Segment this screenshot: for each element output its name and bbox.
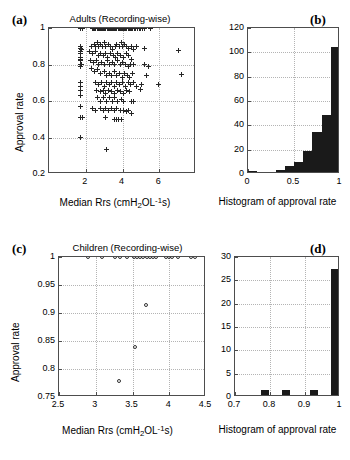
x-axis-tick-label: 4 [119,176,124,186]
x-axis-tick-label: 0.7 [228,399,241,409]
tick-mark-y [248,150,251,151]
data-point-circle [86,256,90,259]
x-axis-tick-label: 2.5 [52,399,65,409]
data-point-plus [78,104,83,109]
y-axis-tick-label: 1 [14,22,45,32]
tick-mark-y [248,52,251,53]
subscript-2: 2 [140,429,144,438]
panel-a-xlabel: Median Rrs (cmH2OL-1s) [30,196,200,210]
histogram-bar [331,269,339,395]
y-axis-tick-label: 20 [213,144,244,154]
tick-mark-y [235,327,238,328]
gridline-vertical [270,257,271,395]
panel-d-xlabel: Histogram of approval rate [205,424,350,435]
data-point-plus [129,57,134,62]
panel-b-letter: (b) [310,12,326,28]
data-point-plus [80,115,85,120]
gridline-vertical [133,257,134,395]
tick-mark-y [235,374,238,375]
data-point-plus [179,72,184,77]
histogram-bar [331,47,339,172]
data-point-plus [80,27,85,31]
data-point-plus [103,115,108,120]
y-axis-tick-label: 1 [24,251,55,261]
panel-a-plot-area [48,27,195,173]
x-axis-tick-label: 3.5 [125,399,138,409]
panel-b-plot-area [247,27,339,173]
gridline-horizontal [248,77,338,78]
data-point-plus [148,27,153,31]
data-point-plus [142,46,147,51]
superscript-minus-1: -1 [155,196,162,205]
superscript-minus-1: -1 [158,424,165,433]
gridline-horizontal [235,374,338,375]
gridline-horizontal [248,101,338,102]
histogram-bar [310,390,318,395]
data-point-plus [131,99,136,104]
data-point-plus [131,62,136,67]
y-axis-tick-label: 0 [213,168,244,178]
histogram-bar [294,162,303,172]
data-point-plus [142,27,147,31]
data-point-circle [113,256,117,259]
tick-mark-y [49,28,52,29]
histogram-bar [312,132,321,172]
y-axis-tick-label: 0 [200,391,231,401]
data-point-circle [118,256,122,259]
y-axis-tick-label: 30 [200,251,231,261]
x-axis-tick-label: 0.5 [287,176,300,186]
tick-mark-x [59,392,60,395]
data-point-circle [176,256,180,259]
data-point-plus [78,88,83,93]
gridline-horizontal [248,52,338,53]
x-axis-tick-label: 1 [336,399,341,409]
gridline-vertical [159,28,160,172]
gridline-vertical [294,28,295,172]
tick-mark-y [235,280,238,281]
tick-mark-x [123,169,124,172]
y-axis-tick-label: 0.85 [24,335,55,345]
y-axis-tick-label: 120 [213,22,244,32]
tick-mark-y [235,350,238,351]
tick-mark-y [59,285,62,286]
tick-mark-y [59,313,62,314]
x-axis-tick-label: 0.8 [263,399,276,409]
panel-c-plot-area [58,256,205,396]
x-axis-tick-label: 0 [244,176,249,186]
data-point-plus [146,64,151,69]
x-axis-tick-label: 4 [166,399,171,409]
y-axis-tick-label: 0.2 [14,168,45,178]
tick-mark-y [248,77,251,78]
data-point-plus [144,73,149,78]
gridline-vertical [305,257,306,395]
data-point-circle [170,256,174,259]
tick-mark-y [235,257,238,258]
subscript-2: 2 [137,201,141,210]
gridline-horizontal [49,138,194,139]
data-point-circle [133,345,137,349]
data-point-circle [125,256,129,259]
data-point-plus [78,135,83,140]
tick-mark-x [159,169,160,172]
data-point-plus [78,93,83,98]
tick-mark-x [270,392,271,395]
tick-mark-y [248,101,251,102]
tick-mark-y [59,369,62,370]
histogram-bar [248,171,257,172]
x-axis-tick-label: 2 [82,176,87,186]
data-point-plus [129,111,134,116]
gridline-vertical [169,257,170,395]
histogram-bar [261,390,269,395]
data-point-plus [127,89,132,94]
figure-container: (a) Adults (Recording-wise) Approval rat… [0,0,350,460]
gridline-horizontal [59,285,204,286]
y-axis-tick-label: 0.9 [24,307,55,317]
data-point-plus [156,82,161,87]
data-point-circle [154,256,158,259]
tick-mark-y [49,101,52,102]
y-axis-tick-label: 0.75 [24,391,55,401]
gridline-horizontal [235,327,338,328]
panel-a-title: Adults (Recording-wise) [40,13,200,24]
histogram-bar [285,166,294,172]
gridline-horizontal [59,341,204,342]
